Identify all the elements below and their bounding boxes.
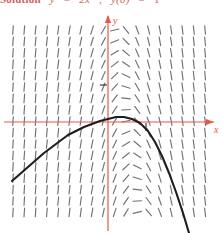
upper-half-plane-region bbox=[0, 16, 222, 122]
lower-half-plane-region bbox=[0, 122, 222, 233]
figure-root: Solutiony=2x,y(0)=1 x y bbox=[0, 0, 222, 233]
